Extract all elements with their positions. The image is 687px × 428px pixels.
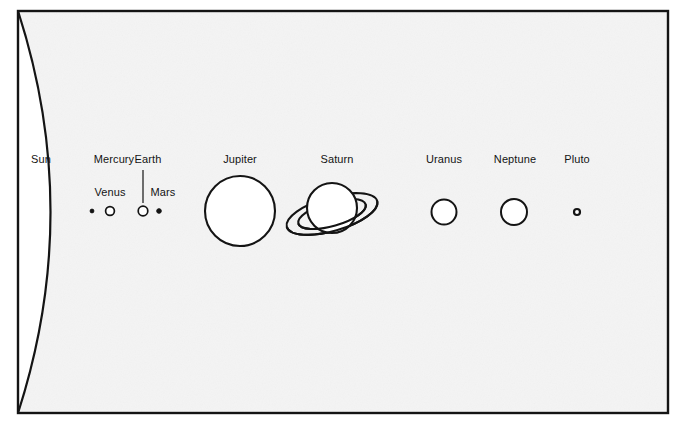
planet-disc-mars [157,209,162,214]
planet-disc-pluto [574,209,580,215]
diagram-canvas: Sun Mercury Venus Earth Mars Jupiter [0,0,687,428]
label-neptune: Neptune [494,153,536,165]
label-earth: Earth [135,153,162,165]
label-pluto: Pluto [564,153,590,165]
planet-disc-uranus [432,200,457,225]
planet-disc-jupiter [205,176,275,246]
label-uranus: Uranus [426,153,462,165]
label-saturn: Saturn [320,153,353,165]
label-mercury: Mercury [94,153,135,165]
planet-disc-mercury [90,209,94,213]
label-jupiter: Jupiter [223,153,257,165]
label-mars: Mars [151,186,176,198]
label-venus: Venus [94,186,125,198]
planet-disc-earth [138,206,148,216]
solar-system-size-diagram: Sun Mercury Venus Earth Mars Jupiter [0,0,687,428]
body-sun: Sun [31,153,51,165]
planet-disc-venus [106,207,115,216]
label-sun: Sun [31,153,51,165]
planet-disc-neptune [501,199,527,225]
